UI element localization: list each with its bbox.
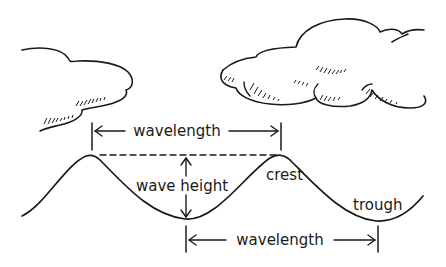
right-cloud — [221, 19, 426, 108]
wavelength-bottom-label: wavelength — [236, 231, 323, 249]
wavelength-top-label: wavelength — [133, 122, 220, 140]
left-cloud — [22, 48, 132, 131]
wavelength-bottom-arrow: wavelength — [186, 226, 378, 252]
crest-label: crest — [266, 166, 303, 184]
wavelength-top-arrow: wavelength — [92, 122, 281, 150]
trough-label: trough — [353, 196, 402, 214]
wave-height-label: wave height — [136, 177, 228, 195]
wave-diagram: wavelength wave height crest trough wave… — [0, 0, 446, 267]
